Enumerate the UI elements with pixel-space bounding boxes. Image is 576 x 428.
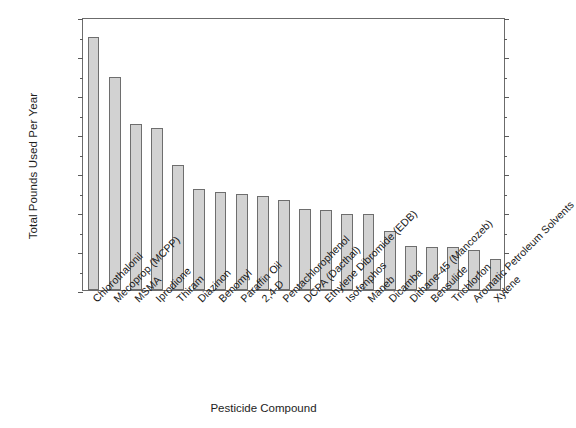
axis-tick-minor — [80, 273, 83, 274]
axis-tick-major — [78, 214, 83, 215]
bar-rect — [447, 247, 459, 290]
bar — [320, 19, 332, 290]
bar-rect — [109, 77, 121, 290]
bar-rect — [490, 259, 502, 290]
bar-rect — [278, 200, 290, 290]
bar-rect — [299, 209, 311, 290]
bar — [490, 19, 502, 290]
bars-layer — [83, 19, 504, 290]
bar-rect — [341, 214, 353, 290]
axis-tick-minor — [504, 117, 507, 118]
bar-rect — [130, 124, 142, 290]
axis-tick-minor — [80, 39, 83, 40]
bar — [215, 19, 227, 290]
bar-rect — [236, 194, 248, 290]
axis-tick-minor — [80, 156, 83, 157]
plot-area — [82, 18, 505, 291]
axis-tick-major — [78, 292, 83, 293]
bar-rect — [172, 165, 184, 290]
bar — [384, 19, 396, 290]
axis-tick-major — [504, 19, 509, 20]
bar — [468, 19, 480, 290]
axis-tick-minor — [80, 234, 83, 235]
bar — [172, 19, 184, 290]
bar — [151, 19, 163, 290]
axis-tick-major — [504, 136, 509, 137]
axis-tick-minor — [504, 156, 507, 157]
axis-tick-minor — [504, 195, 507, 196]
axis-tick-major — [504, 175, 509, 176]
bar-rect — [468, 250, 480, 290]
axis-tick-major — [504, 214, 509, 215]
axis-tick-major — [78, 58, 83, 59]
axis-tick-major — [78, 19, 83, 20]
axis-tick-minor — [80, 117, 83, 118]
axis-tick-minor — [504, 273, 507, 274]
bar-rect — [88, 37, 100, 291]
axis-tick-minor — [504, 39, 507, 40]
axis-tick-minor — [80, 78, 83, 79]
bar — [447, 19, 459, 290]
axis-tick-major — [504, 97, 509, 98]
bar — [341, 19, 353, 290]
bar — [405, 19, 417, 290]
axis-tick-minor — [504, 78, 507, 79]
bar-rect — [320, 210, 332, 290]
bar-rect — [405, 246, 417, 290]
axis-tick-major — [78, 97, 83, 98]
bar — [88, 19, 100, 290]
bar-rect — [151, 128, 163, 290]
bar — [130, 19, 142, 290]
axis-tick-major — [78, 175, 83, 176]
bar — [426, 19, 438, 290]
axis-tick-major — [78, 136, 83, 137]
bar — [257, 19, 269, 290]
y-axis-title: Total Pounds Used Per Year — [27, 41, 39, 291]
bar-rect — [215, 192, 227, 290]
bar-rect — [426, 247, 438, 290]
bar — [109, 19, 121, 290]
bar-rect — [193, 189, 205, 290]
bar — [363, 19, 375, 290]
bar — [193, 19, 205, 290]
axis-tick-major — [504, 292, 509, 293]
bar — [236, 19, 248, 290]
axis-tick-minor — [504, 234, 507, 235]
bar-rect — [257, 196, 269, 290]
bar-rect — [384, 231, 396, 290]
x-axis-title: Pesticide Compound — [0, 402, 527, 414]
bar-rect — [363, 214, 375, 290]
axis-tick-major — [78, 253, 83, 254]
axis-tick-major — [504, 58, 509, 59]
axis-tick-minor — [80, 195, 83, 196]
bar — [278, 19, 290, 290]
axis-tick-major — [504, 253, 509, 254]
bar — [299, 19, 311, 290]
